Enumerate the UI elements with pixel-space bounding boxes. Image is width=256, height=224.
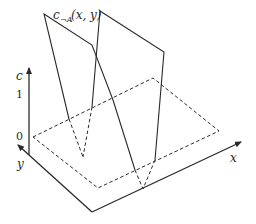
x-axis-label: x — [230, 151, 237, 165]
surface-label-base: c — [53, 8, 60, 22]
y-axis-label: y — [16, 157, 24, 171]
y-axis — [18, 145, 29, 155]
c-tick-1: 1 — [16, 88, 23, 101]
c-tick-0: 0 — [16, 130, 23, 143]
axes — [18, 68, 241, 212]
x-axis — [92, 142, 241, 212]
left-plane — [44, 14, 143, 189]
surface-label: c ¬A (x, y) — [53, 8, 102, 24]
base-rectangle — [33, 78, 219, 188]
characteristic-function-diagram: c ¬A (x, y) c 1 0 y x — [0, 0, 256, 224]
surface-label-args: (x, y) — [71, 8, 102, 22]
x-axis-front — [29, 155, 92, 212]
right-plane — [83, 11, 164, 189]
c-axis-label: c — [16, 69, 23, 83]
